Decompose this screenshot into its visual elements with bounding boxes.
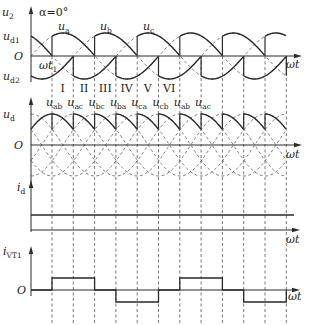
line-label-ca: uca — [131, 96, 147, 111]
ud1-curve — [222, 33, 264, 55]
wt-label-ivt1: ωt — [288, 290, 302, 303]
arrow-up-icon — [29, 6, 33, 14]
line-label-cb: ucb — [153, 96, 169, 111]
ud1-curve — [31, 36, 52, 56]
ud-envelope — [95, 114, 116, 129]
ud-envelope — [73, 114, 94, 129]
ud-envelope — [52, 114, 73, 129]
id-label: id — [17, 181, 26, 196]
waveform-svg: u2α=0°ud1ud2Oωt1uaubucωtIIIIIIIVVVIudOua… — [0, 0, 310, 325]
wt-label: ωt — [286, 58, 300, 71]
ud-envelope — [137, 114, 158, 129]
wt-label-mid: ωt — [286, 148, 300, 161]
origin-label-ivt1: O — [17, 284, 26, 297]
arrow-up-icon — [29, 97, 33, 105]
arrow-up-icon — [29, 180, 33, 188]
alpha-label: α=0° — [39, 6, 68, 19]
phase-label-a: ua — [58, 20, 70, 35]
interval-II: II — [80, 82, 89, 95]
ud-envelope — [180, 114, 201, 129]
line-label-ac: uac — [67, 96, 83, 111]
interval-VI: VI — [162, 82, 175, 95]
origin-label: O — [14, 50, 23, 63]
line-label-ba: uba — [110, 96, 127, 111]
phase-label-c: uc — [143, 20, 154, 35]
u2-label: u2 — [2, 6, 14, 21]
interval-I: I — [60, 82, 64, 95]
waveform-figure: u2α=0°ud1ud2Oωt1uaubucωtIIIIIIIVVVIudOua… — [0, 0, 310, 325]
ud-envelope — [222, 114, 243, 129]
line-label-ab: uab — [174, 96, 191, 111]
ud-envelope — [31, 114, 52, 129]
ud-envelope — [116, 114, 137, 129]
ud-envelope — [244, 114, 265, 129]
line-label-ab: uab — [46, 96, 63, 111]
ud1-curve — [95, 33, 137, 55]
origin-label-mid: O — [14, 139, 23, 152]
ud2-label: ud2 — [3, 70, 20, 85]
ud-envelope — [159, 114, 180, 129]
arrow-right-icon — [294, 143, 302, 147]
arrow-up-icon — [29, 246, 33, 254]
line-label-ac: uac — [195, 96, 211, 111]
interval-III: III — [99, 82, 112, 95]
ud1-curve — [180, 33, 222, 55]
phase-label-b: ub — [100, 20, 112, 35]
interval-IV: IV — [120, 82, 133, 95]
ud-envelope — [201, 114, 222, 129]
ud1-label: ud1 — [3, 30, 20, 45]
arrow-right-icon — [292, 228, 300, 232]
wt-label-id: ωt — [286, 233, 300, 246]
ud1-curve — [52, 33, 94, 55]
line-label-bc: ubc — [89, 96, 105, 111]
interval-V: V — [143, 82, 153, 95]
wt1-label: ωt1 — [39, 59, 57, 74]
ud-envelope — [265, 114, 286, 129]
ud1-curve — [137, 33, 179, 55]
ivt1-label: iVT1 — [3, 245, 22, 260]
ud1-curve — [265, 33, 286, 36]
ud-label: ud — [3, 108, 15, 123]
